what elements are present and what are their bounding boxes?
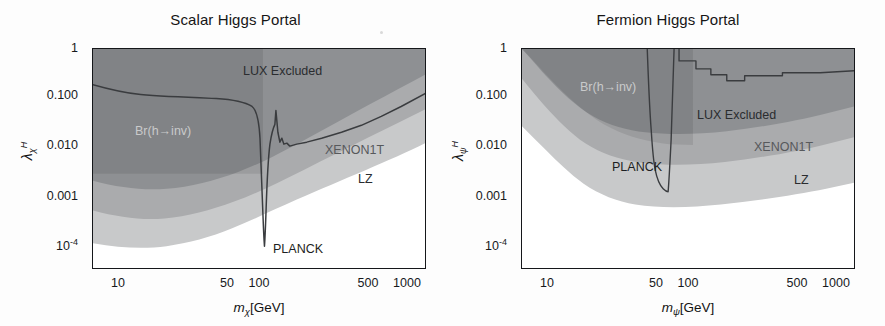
xtick-scalar-4: 1000: [386, 277, 428, 290]
two-panel-figure: Scalar Higgs Portal 1 0.100 0.010 0.001 …: [0, 0, 885, 326]
ytick-fermion-0: 1: [443, 42, 507, 55]
ylabel-scalar: λχH: [19, 121, 37, 181]
scan-speck: [380, 31, 383, 34]
panel-title-scalar: Scalar Higgs Portal: [0, 11, 443, 28]
plot-area-fermion: LUX Excluded XENON1T LZ Br(h→inv) PLANCK: [521, 48, 855, 269]
xtick-scalar-3: 500: [350, 277, 386, 290]
ytick-scalar-1: 0.100: [12, 89, 78, 102]
xtick-scalar-2: 100: [241, 277, 277, 290]
xlabel-fermion: mψ[GeV]: [521, 300, 855, 317]
xtick-fermion-3: 500: [779, 277, 815, 290]
ytick-fermion-3: 0.001: [443, 190, 507, 203]
ytick-scalar-0: 1: [12, 42, 78, 55]
panel-scalar-higgs-portal: Scalar Higgs Portal 1 0.100 0.010 0.001 …: [0, 0, 443, 326]
xtick-fermion-4: 1000: [815, 277, 857, 290]
xtick-scalar-0: 10: [100, 277, 136, 290]
ytick-fermion-4: 10-4: [443, 238, 507, 253]
xtick-fermion-2: 100: [670, 277, 706, 290]
xlabel-scalar: mχ[GeV]: [92, 300, 426, 317]
xtick-fermion-1: 50: [638, 277, 674, 290]
xtick-fermion-0: 10: [529, 277, 565, 290]
plot-area-scalar: LUX Excluded XENON1T LZ Br(h→inv) PLANCK: [92, 48, 426, 269]
ytick-scalar-3: 0.001: [12, 190, 78, 203]
region-br-h-inv-scalar: [93, 49, 263, 174]
plot-svg-fermion: [522, 49, 854, 268]
ytick-scalar-4: 10-4: [12, 238, 78, 253]
xtick-scalar-1: 50: [209, 277, 245, 290]
ytick-fermion-1: 0.100: [443, 89, 507, 102]
panel-fermion-higgs-portal: Fermion Higgs Portal 1 0.100 0.010 0.001…: [443, 0, 885, 326]
ylabel-fermion: λψH: [450, 121, 468, 181]
plot-svg-scalar: [93, 49, 425, 268]
panel-title-fermion: Fermion Higgs Portal: [443, 11, 885, 28]
